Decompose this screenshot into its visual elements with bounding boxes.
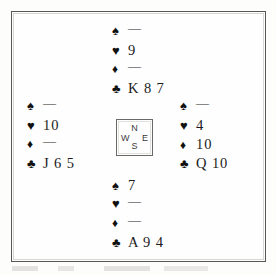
compass-box: N W E S [116,119,153,156]
hand-south: ♠ 7 ♥ — ♦ — ♣ A 9 4 [112,178,164,254]
club-icon: ♣ [112,82,126,95]
hand-east: ♠ — ♥ 4 ♦ 10 ♣ Q 10 [180,99,228,175]
spade-icon: ♠ [112,179,126,192]
east-club-cards: Q 10 [194,156,228,171]
compass-label-south: S [117,142,152,151]
south-club-cards: A 9 4 [126,235,164,250]
south-spade-cards: 7 [126,178,136,193]
west-heart-cards: 10 [41,118,59,133]
north-spade-cards: — [126,21,141,34]
east-spade-row: ♠ — [180,99,228,118]
south-diamond-row: ♦ — [112,216,164,235]
east-heart-row: ♥ 4 [180,118,228,137]
east-spade-cards: — [194,96,209,109]
south-diamond-cards: — [126,213,141,226]
hand-north: ♠ — ♥ 9 ♦ — ♣ K 8 7 [112,24,165,100]
north-diamond-row: ♦ — [112,62,165,81]
club-icon: ♣ [112,236,126,249]
heart-icon: ♥ [112,197,126,210]
spade-icon: ♠ [27,99,41,112]
east-diamond-cards: 10 [194,137,212,152]
north-club-row: ♣ K 8 7 [112,81,165,100]
diamond-icon: ♦ [112,217,126,229]
club-icon: ♣ [180,157,194,170]
west-diamond-cards: — [41,134,56,147]
compass-label-west: W [121,133,130,142]
club-icon: ♣ [27,157,41,170]
west-spade-cards: — [41,96,56,109]
south-heart-cards: — [126,194,141,207]
north-spade-row: ♠ — [112,24,165,43]
west-club-cards: J 6 5 [41,156,75,171]
spade-icon: ♠ [112,24,126,37]
west-club-row: ♣ J 6 5 [27,156,75,175]
east-club-row: ♣ Q 10 [180,156,228,175]
heart-icon: ♥ [180,119,194,132]
diamond-icon: ♦ [112,63,126,75]
compass-label-east: E [142,133,148,142]
hand-west: ♠ — ♥ 10 ♦ — ♣ J 6 5 [27,99,75,175]
spade-icon: ♠ [180,99,194,112]
north-diamond-cards: — [126,59,141,72]
west-diamond-row: ♦ — [27,137,75,156]
heart-icon: ♥ [27,119,41,132]
north-heart-cards: 9 [126,43,136,58]
diamond-icon: ♦ [27,138,41,150]
south-club-row: ♣ A 9 4 [112,235,164,254]
bridge-hand-diagram: ♠ — ♥ 9 ♦ — ♣ K 8 7 ♠ — ♥ 10 ♦ — ♣ [0,0,276,275]
north-club-cards: K 8 7 [126,81,165,96]
east-heart-cards: 4 [194,118,204,133]
heart-icon: ♥ [112,44,126,57]
east-diamond-row: ♦ 10 [180,137,228,156]
diamond-icon: ♦ [180,139,194,151]
west-spade-row: ♠ — [27,99,75,118]
